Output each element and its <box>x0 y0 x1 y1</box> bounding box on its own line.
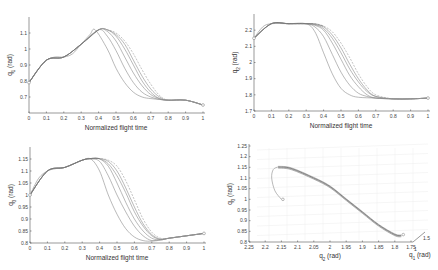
chart-q3: 00.10.20.30.40.50.60.70.80.910.80.850.90… <box>7 147 206 262</box>
x-tick-label: 0.6 <box>131 245 138 251</box>
y-tick-label: 0.85 <box>18 228 28 234</box>
x-axis-label: Normalized flight time <box>85 124 148 132</box>
x-tick-label: 0.4 <box>95 115 102 121</box>
x-tick-label: 1.9 <box>359 244 366 250</box>
x-tick-label: 0.1 <box>44 245 51 251</box>
y-tick-label: 1.8 <box>245 92 252 98</box>
series-line <box>30 158 204 240</box>
x-tick-label: 0.6 <box>355 113 362 119</box>
series-line <box>29 28 203 105</box>
y-tick-label: 0.9 <box>20 62 27 68</box>
y-tick-label: 1.25 <box>237 143 247 149</box>
z-tick-label: 1.5 <box>423 235 430 241</box>
y-tick-label: 0.8 <box>20 78 27 84</box>
x-tick-label: 1.8 <box>391 244 398 250</box>
series-line <box>29 29 203 105</box>
end-marker <box>402 233 405 236</box>
x-tick-label: 0.5 <box>114 245 121 251</box>
y-tick-label: 2.2 <box>245 27 252 33</box>
x-tick-label: 0.9 <box>183 245 190 251</box>
start-marker <box>253 37 256 40</box>
start-marker <box>282 198 285 201</box>
x-tick-label: 0.9 <box>182 115 189 121</box>
y-tick-label: 1 <box>24 46 27 52</box>
y-tick-label: 1.7 <box>245 108 252 114</box>
trajectory-start-segment <box>272 167 282 199</box>
x-tick-label: 0.8 <box>390 113 397 119</box>
y-tick-label: 0.9 <box>21 216 28 222</box>
end-marker <box>203 232 206 235</box>
x-tick-label: 0.1 <box>268 113 275 119</box>
x-tick-label: 1 <box>203 245 206 251</box>
start-marker <box>28 81 31 84</box>
x-tick-label: 0 <box>29 245 32 251</box>
series-line <box>254 23 428 100</box>
series-line <box>254 23 428 99</box>
y-tick-label: 1.15 <box>237 164 247 170</box>
x-tick-label: 0 <box>28 115 31 121</box>
series-line <box>29 29 203 105</box>
x-tick-label: 0.3 <box>303 113 310 119</box>
x-tick-label: 2.05 <box>309 244 319 250</box>
y-tick-label: 0.85 <box>237 228 247 234</box>
y-tick-label: 1.2 <box>240 153 247 159</box>
grid-line <box>257 220 428 226</box>
x-tick-label: 2.25 <box>244 244 254 250</box>
grid-line <box>257 154 428 160</box>
x-tick-label: 0.3 <box>79 245 86 251</box>
x-tick-label: 0.2 <box>285 113 292 119</box>
y-axis-label: q3 (rad) <box>226 183 236 205</box>
x-tick-label: 0.5 <box>113 115 120 121</box>
x-tick-label: 1.95 <box>341 244 351 250</box>
grid-line <box>257 182 428 188</box>
y-tick-label: 1 <box>244 196 247 202</box>
z-axis-label: q1 (rad) <box>409 251 431 261</box>
overlap-segment <box>30 158 100 195</box>
end-marker <box>427 97 430 100</box>
x-tick-label: 1.85 <box>374 244 384 250</box>
x-tick-label: 2 <box>329 244 332 250</box>
grid-line <box>257 144 428 150</box>
x-tick-label: 0.7 <box>372 113 379 119</box>
y-tick-label: 0.95 <box>237 207 247 213</box>
x-axis-label: q2 (rad) <box>319 252 341 262</box>
series-line <box>254 23 428 99</box>
x-tick-label: 0.5 <box>338 113 345 119</box>
x-tick-label: 0.8 <box>166 245 173 251</box>
end-marker <box>202 104 205 107</box>
grid-line <box>257 201 428 207</box>
y-tick-label: 2 <box>249 59 252 65</box>
y-tick-label: 1.1 <box>240 175 247 181</box>
y-axis-label: q1 (rad) <box>6 54 16 76</box>
series-line <box>254 23 428 99</box>
y-axis-label: q2 (rad) <box>231 52 241 74</box>
x-tick-label: 0.2 <box>61 245 68 251</box>
x-tick-label: 0.7 <box>148 245 155 251</box>
figure-canvas: 00.10.20.30.40.50.60.70.80.910.70.80.911… <box>0 0 438 270</box>
x-axis-label: Normalized flight time <box>86 254 149 262</box>
y-tick-label: 1.05 <box>237 185 247 191</box>
y-tick-label: 2.1 <box>245 43 252 49</box>
x-tick-label: 1 <box>202 115 205 121</box>
start-marker <box>29 194 32 197</box>
x-axis-label: Normalized flight time <box>310 122 373 130</box>
y-tick-label: 1.15 <box>18 156 28 162</box>
y-tick-label: 1.1 <box>20 30 27 36</box>
series-line <box>30 158 204 238</box>
y-axis-label: q3 (rad) <box>7 184 17 206</box>
x-tick-label: 0.3 <box>78 115 85 121</box>
grid-line <box>257 173 428 179</box>
chart-q2: 00.10.20.30.40.50.60.70.80.911.71.81.922… <box>231 14 430 130</box>
x-tick-label: 0.9 <box>407 113 414 119</box>
y-tick-label: 0.95 <box>18 204 28 210</box>
x-tick-label: 2.2 <box>262 244 269 250</box>
trajectory-bundle-line <box>278 168 401 237</box>
y-tick-label: 1.05 <box>18 180 28 186</box>
series-line <box>254 23 428 99</box>
x-tick-label: 0.2 <box>60 115 67 121</box>
x-tick-label: 0 <box>253 113 256 119</box>
x-tick-label: 0.1 <box>43 115 50 121</box>
chart-3d-trajectory: 0.80.850.90.9511.051.11.151.21.252.252.2… <box>226 143 431 262</box>
grid-line <box>257 211 428 217</box>
y-tick-label: 1 <box>25 192 28 198</box>
